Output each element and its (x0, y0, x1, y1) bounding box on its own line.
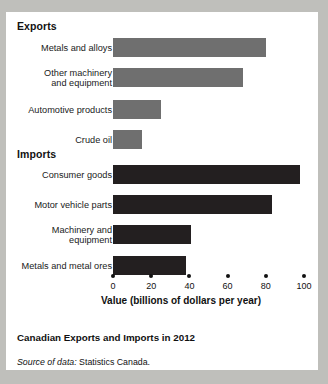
bar (113, 130, 142, 149)
axis-tick-label: 100 (289, 281, 319, 291)
source-value: Statistics Canada. (77, 357, 150, 367)
bar-row-label: Crude oil (0, 134, 112, 145)
axis-tick-dot (111, 274, 115, 278)
source-label: Source of data: (17, 357, 77, 367)
bar-row: Metals and alloys (6, 38, 318, 57)
bar-row-label: Metals and metal ores (0, 260, 112, 271)
axis-tick-dot (187, 274, 191, 278)
bar-row: Consumer goods (6, 165, 318, 184)
bar-row: Metals and metal ores (6, 256, 318, 275)
bar-chart-plot-area: Metals and alloysOther machinery and equ… (6, 12, 318, 370)
axis-tick: 100 (289, 274, 319, 291)
axis-tick: 20 (136, 274, 166, 291)
bar-row: Other machinery and equipment (6, 68, 318, 87)
figure-card: Exports Imports Metals and alloysOther m… (6, 12, 318, 370)
bar-row: Automotive products (6, 100, 318, 119)
axis-tick-dot (264, 274, 268, 278)
axis-tick-label: 60 (213, 281, 243, 291)
figure-caption-title: Canadian Exports and Imports in 2012 (17, 332, 195, 343)
bar-row-label: Other machinery and equipment (0, 67, 112, 88)
bar-row-label: Consumer goods (0, 169, 112, 180)
page-background: Exports Imports Metals and alloysOther m… (0, 0, 328, 384)
figure-source-note: Source of data: Statistics Canada. (17, 357, 150, 367)
bar-row: Motor vehicle parts (6, 195, 318, 214)
bar (113, 195, 272, 214)
axis-title: Value (billions of dollars per year) (6, 295, 318, 306)
axis-tick-label: 40 (174, 281, 204, 291)
bar-row: Machinery and equipment (6, 225, 318, 244)
axis-tick-dot (226, 274, 230, 278)
bar (113, 38, 266, 57)
bar (113, 68, 243, 87)
axis-tick-dot (149, 274, 153, 278)
axis-tick-label: 0 (98, 281, 128, 291)
axis-tick-label: 20 (136, 281, 166, 291)
axis-tick-label: 80 (251, 281, 281, 291)
bar-row-label: Automotive products (0, 104, 112, 115)
axis-tick: 60 (213, 274, 243, 291)
bar (113, 100, 161, 119)
bar-row-label: Machinery and equipment (0, 224, 112, 245)
bar-row: Crude oil (6, 130, 318, 149)
bar (113, 225, 191, 244)
axis-tick-dot (302, 274, 306, 278)
axis-tick: 0 (98, 274, 128, 291)
bar (113, 165, 300, 184)
bar-row-label: Metals and alloys (0, 42, 112, 53)
bar (113, 256, 186, 275)
bar-row-label: Motor vehicle parts (0, 199, 112, 210)
axis-tick: 80 (251, 274, 281, 291)
axis-tick: 40 (174, 274, 204, 291)
